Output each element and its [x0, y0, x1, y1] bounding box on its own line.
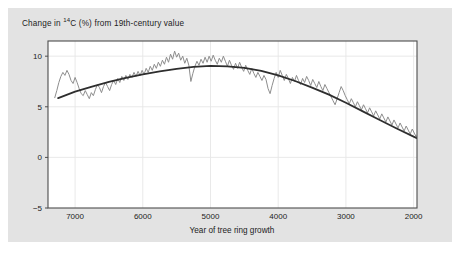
- x-axis-tick-labels: 7000600050004000300020001000010002000: [66, 212, 452, 221]
- chart-plot: 7000600050004000300020001000010002000 10…: [8, 8, 452, 242]
- x-tick-label: 3000: [337, 212, 355, 221]
- x-tick-label: 2000: [405, 212, 423, 221]
- y-axis-tick-labels: 1050−5: [33, 52, 48, 213]
- y-tick-label: 0: [38, 153, 43, 162]
- x-tick-label: 5000: [202, 212, 220, 221]
- x-tick-label: 7000: [66, 212, 84, 221]
- x-tick-label: 6000: [134, 212, 152, 221]
- x-tick-label: 4000: [269, 212, 287, 221]
- figure-card: Change in 14C (%) from 19th-century valu…: [8, 8, 452, 242]
- y-tick-label: 5: [38, 103, 43, 112]
- x-axis-title: Year of tree ring growth: [190, 226, 275, 235]
- y-tick-label: 10: [33, 52, 42, 61]
- y-tick-label: −5: [33, 204, 43, 213]
